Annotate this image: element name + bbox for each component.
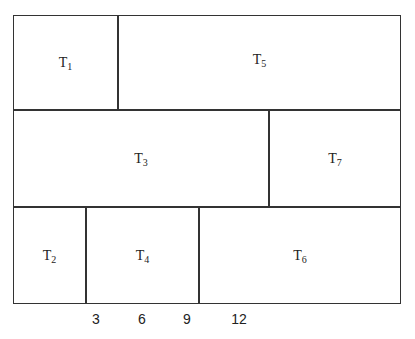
- block-t4: T4: [86, 207, 199, 304]
- block-t6: T6: [199, 207, 401, 304]
- axis-tick: 9: [183, 311, 191, 327]
- block-label: T5: [253, 52, 267, 68]
- block-t7: T7: [269, 110, 401, 207]
- axis-tick: 6: [138, 311, 146, 327]
- block-t3: T3: [13, 110, 269, 207]
- block-label: T7: [328, 151, 342, 167]
- block-label: T3: [134, 151, 148, 167]
- block-label: T2: [43, 248, 57, 264]
- block-label: T6: [293, 248, 307, 264]
- axis-tick: 3: [92, 311, 100, 327]
- block-t5: T5: [118, 15, 401, 105]
- block-label: T4: [136, 248, 150, 264]
- axis-tick: 12: [231, 311, 247, 327]
- block-label: T1: [59, 55, 73, 71]
- block-t2: T2: [13, 207, 86, 304]
- block-t1: T1: [13, 15, 118, 110]
